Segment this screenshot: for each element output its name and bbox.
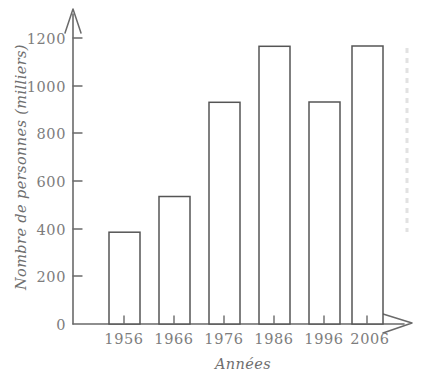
bar-2006 [352, 46, 383, 324]
y-tick-labels: 1200 1000 800 600 400 200 0 [27, 31, 66, 333]
y-tick-label-0: 0 [56, 317, 66, 333]
y-tick-label-600: 600 [37, 174, 66, 190]
x-tick-label-1986: 1986 [254, 331, 293, 347]
y-tick-label-800: 800 [37, 126, 66, 142]
y-tick-label-400: 400 [37, 222, 66, 238]
y-axis-title: Nombre de personnes (milliers) [13, 44, 29, 291]
bar-1976 [209, 102, 240, 324]
x-tick-label-1976: 1976 [204, 331, 243, 347]
bar-series [109, 46, 383, 324]
x-tick-label-2006: 2006 [350, 331, 389, 347]
x-tick-label-1996: 1996 [304, 331, 343, 347]
x-tick-label-1966: 1966 [154, 331, 193, 347]
bar-1956 [109, 232, 140, 324]
y-axis [65, 9, 81, 324]
y-tick-label-200: 200 [37, 269, 66, 285]
x-tick-label-1956: 1956 [104, 331, 143, 347]
y-tick-label-1200: 1200 [27, 31, 66, 47]
x-tick-labels: 1956 1966 1976 1986 1996 2006 [104, 331, 389, 347]
bar-1996 [309, 102, 340, 324]
y-tick-label-1000: 1000 [27, 79, 66, 95]
bar-1986 [259, 46, 290, 324]
bar-1966 [159, 197, 190, 325]
y-tick-marks [73, 38, 82, 276]
x-axis-title: Années [213, 356, 271, 372]
bar-chart-figure: 1200 1000 800 600 400 200 0 Nombre de pe… [0, 0, 426, 379]
chart-canvas: 1200 1000 800 600 400 200 0 Nombre de pe… [0, 0, 426, 379]
